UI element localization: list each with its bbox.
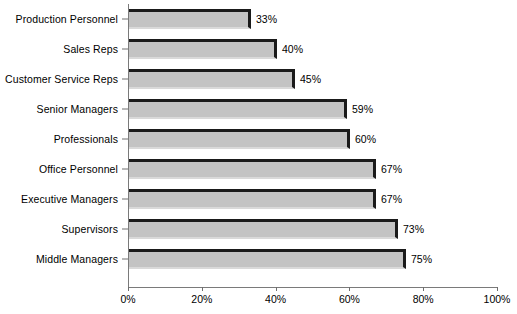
- bar-value-label: 67%: [381, 193, 402, 205]
- y-axis-tick-mark: [122, 259, 128, 260]
- x-axis-tick-label: 0%: [120, 293, 135, 305]
- y-axis-tick-mark: [122, 169, 128, 170]
- x-axis-tick-label: 80%: [413, 293, 434, 305]
- y-axis-tick-mark: [122, 19, 128, 20]
- bar-value-label: 59%: [352, 103, 373, 115]
- bar-row: Executive Managers67%: [0, 189, 517, 209]
- x-axis-tick-label: 20%: [191, 293, 212, 305]
- category-label: Production Personnel: [16, 13, 118, 25]
- bar-row: Production Personnel33%: [0, 9, 517, 29]
- bar: [129, 249, 406, 269]
- category-label: Middle Managers: [36, 253, 118, 265]
- y-axis-tick-mark: [122, 79, 128, 80]
- category-label: Supervisors: [61, 223, 118, 235]
- bar: [129, 69, 295, 89]
- y-axis-tick-mark: [122, 49, 128, 50]
- bar-chart: Production Personnel33%Sales Reps40%Cust…: [0, 0, 517, 314]
- bar-rows: Production Personnel33%Sales Reps40%Cust…: [0, 0, 517, 287]
- bar-row: Sales Reps40%: [0, 39, 517, 59]
- bar-row: Customer Service Reps45%: [0, 69, 517, 89]
- y-axis-tick-mark: [122, 139, 128, 140]
- bar: [129, 159, 376, 179]
- y-axis-tick-mark: [122, 229, 128, 230]
- bar-row: Supervisors73%: [0, 219, 517, 239]
- bar-value-label: 40%: [282, 43, 303, 55]
- x-axis-tick-mark: [423, 287, 424, 291]
- x-axis-tick-mark: [128, 287, 129, 291]
- bar: [129, 39, 277, 59]
- y-axis-tick-mark: [122, 199, 128, 200]
- bar-row: Office Personnel67%: [0, 159, 517, 179]
- bar-value-label: 45%: [300, 73, 321, 85]
- x-axis-tick-mark: [276, 287, 277, 291]
- bar-value-label: 33%: [256, 13, 277, 25]
- x-axis-ticks: 0%20%40%60%80%100%: [0, 287, 517, 314]
- bar-value-label: 75%: [411, 253, 432, 265]
- bar-value-label: 67%: [381, 163, 402, 175]
- x-axis-tick-mark: [497, 287, 498, 291]
- bar-value-label: 60%: [355, 133, 376, 145]
- bar-row: Senior Managers59%: [0, 99, 517, 119]
- category-label: Sales Reps: [63, 43, 118, 55]
- x-axis-tick-label: 100%: [484, 293, 511, 305]
- bar: [129, 219, 398, 239]
- x-axis-tick-mark: [202, 287, 203, 291]
- x-axis-tick-mark: [349, 287, 350, 291]
- category-label: Professionals: [54, 133, 118, 145]
- category-label: Executive Managers: [21, 193, 118, 205]
- bar: [129, 9, 251, 29]
- bar: [129, 129, 350, 149]
- category-label: Office Personnel: [39, 163, 118, 175]
- y-axis-tick-mark: [122, 109, 128, 110]
- bar: [129, 189, 376, 209]
- category-label: Senior Managers: [37, 103, 118, 115]
- bar: [129, 99, 347, 119]
- bar-row: Middle Managers75%: [0, 249, 517, 269]
- x-axis-tick-label: 40%: [265, 293, 286, 305]
- bar-row: Professionals60%: [0, 129, 517, 149]
- bar-value-label: 73%: [403, 223, 424, 235]
- x-axis-tick-label: 60%: [339, 293, 360, 305]
- category-label: Customer Service Reps: [5, 73, 118, 85]
